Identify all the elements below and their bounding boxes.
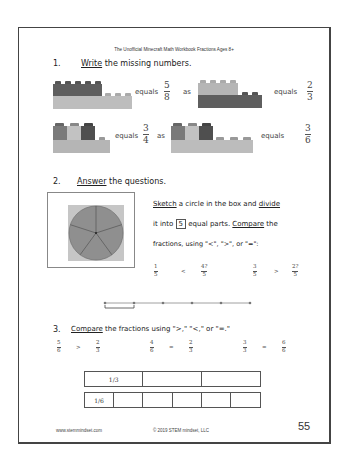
- workbook-page: The Unofficial Minecraft Math Workbook F…: [18, 27, 331, 444]
- numerator: 2: [307, 81, 313, 90]
- denominator: 5: [253, 272, 257, 278]
- pie-circle-icon: [48, 193, 134, 267]
- q3-prompt: Compare the fractions using ">," "<," or…: [71, 325, 230, 333]
- equals-label: equals: [115, 132, 138, 140]
- numerator: 1: [154, 264, 158, 270]
- strip-cell: [143, 393, 172, 407]
- book-title: The Unofficial Minecraft Math Workbook F…: [19, 47, 329, 52]
- brick-model-2-3: [198, 80, 268, 109]
- strip-cell: [114, 393, 143, 407]
- instruction-text: it into: [153, 220, 176, 228]
- page-number: 55: [298, 420, 310, 432]
- numerator: 3: [253, 264, 257, 270]
- brick-model-3-4: [53, 123, 110, 153]
- fraction-2-3: 23: [307, 81, 313, 102]
- q2-prompt-rest: the questions.: [106, 177, 166, 186]
- numerator: 3: [243, 340, 247, 346]
- numerator: 2: [96, 340, 100, 346]
- comparison-operator[interactable]: =: [169, 344, 174, 350]
- numerator: 2?: [292, 264, 298, 270]
- denominator: 3: [96, 348, 100, 354]
- fraction-2-5: 2?5: [292, 264, 298, 278]
- strip-cell: [173, 393, 202, 407]
- as-label: as: [183, 88, 191, 96]
- instruction-text: a circle in the box and: [177, 200, 259, 208]
- fraction-1-5: 15: [154, 264, 158, 278]
- number-line: [103, 299, 253, 311]
- q2-instruction-line3: fractions, using "<", ">", or "=":: [153, 240, 259, 248]
- denominator: 6: [305, 136, 311, 145]
- q1-number: 1.: [53, 59, 61, 68]
- denominator: 5: [202, 272, 206, 278]
- divide-verb: divide: [259, 200, 280, 208]
- comparison-operator[interactable]: >: [274, 268, 279, 274]
- equals-label: equals: [274, 88, 297, 96]
- q1-prompt: Write the missing numbers.: [81, 59, 192, 68]
- q2-number: 2.: [53, 177, 61, 186]
- equals-label: equals: [261, 132, 284, 140]
- strip-cell-labeled: 1/6: [85, 393, 114, 407]
- strip-cell: [231, 393, 260, 407]
- fraction-4-6: 46: [150, 340, 154, 354]
- parts-count-box: 5: [176, 219, 186, 229]
- denominator: 8: [164, 93, 170, 102]
- brick-model-3-6: [171, 123, 253, 153]
- fraction-5-6: 56: [57, 340, 61, 354]
- q3-prompt-rest: the fractions using ">," "<," or "=.": [103, 325, 230, 333]
- sketch-verb: Sketch: [153, 200, 177, 208]
- q2-instruction-line1: Sketch a circle in the box and divide: [153, 200, 280, 208]
- comparison-operator[interactable]: <: [181, 268, 186, 274]
- numerator: 4?: [201, 264, 207, 270]
- equals-label: equals: [135, 88, 158, 96]
- fraction-strip-sixths: 1/6: [84, 392, 261, 408]
- denominator: 5: [154, 272, 158, 278]
- denominator: 5: [293, 272, 297, 278]
- instruction-text: the: [264, 220, 278, 228]
- brick-model-5-8: [53, 81, 132, 110]
- q3-verb: Compare: [71, 325, 103, 333]
- q2-instruction-line2: it into 5 equal parts. Compare the: [153, 220, 278, 228]
- denominator: 6: [57, 348, 61, 354]
- comparison-operator[interactable]: =: [262, 344, 267, 350]
- strip-cell: [143, 372, 201, 386]
- denominator: 6: [282, 348, 286, 354]
- strip-cell: [202, 372, 260, 386]
- numerator: 4: [150, 340, 154, 346]
- fraction-5-8: 58: [164, 81, 170, 102]
- q1-verb: Write: [81, 59, 102, 68]
- compare-verb: Compare: [232, 220, 264, 228]
- fraction-2-3: 23: [96, 340, 100, 354]
- instruction-text: equal parts.: [186, 220, 232, 228]
- strip-cell: [202, 393, 231, 407]
- fraction-2-3: 23: [189, 340, 193, 354]
- fraction-3-4: 34: [143, 124, 149, 145]
- fraction-3-5: 35: [253, 264, 257, 278]
- footer-copyright: © 2019 STEM mindset, LLC: [153, 428, 209, 433]
- numerator: 3: [143, 124, 149, 133]
- fraction-4-5: 4?5: [201, 264, 207, 278]
- denominator: 4: [143, 136, 149, 145]
- fraction-3-6: 36: [305, 124, 311, 145]
- denominator: 3: [243, 348, 247, 354]
- fraction-3-3: 33: [243, 340, 247, 354]
- denominator: 3: [307, 93, 313, 102]
- comparison-operator[interactable]: >: [76, 344, 81, 350]
- numerator: 3: [305, 124, 311, 133]
- numerator: 5: [57, 340, 61, 346]
- q2-prompt: Answer the questions.: [77, 177, 166, 186]
- numerator: 6: [282, 340, 286, 346]
- q1-prompt-rest: the missing numbers.: [102, 59, 191, 68]
- footer-website: www.stemmindset.com: [56, 428, 102, 433]
- q2-verb: Answer: [77, 177, 106, 186]
- as-label: as: [157, 132, 165, 140]
- q3-number: 3.: [53, 325, 61, 334]
- fraction-6-6: 66: [282, 340, 286, 354]
- fraction-strip-thirds: 1/3: [84, 371, 261, 387]
- sketch-box[interactable]: [47, 192, 135, 268]
- denominator: 6: [150, 348, 154, 354]
- strip-cell-labeled: 1/3: [85, 372, 143, 386]
- denominator: 3: [189, 348, 193, 354]
- numerator: 2: [189, 340, 193, 346]
- numerator: 5: [164, 81, 170, 90]
